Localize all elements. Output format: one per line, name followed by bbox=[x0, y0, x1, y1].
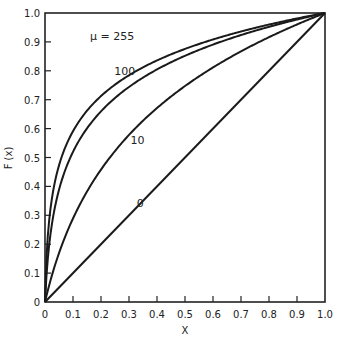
curve-label: 100 bbox=[114, 65, 135, 78]
x-tick-label: 1.0 bbox=[317, 309, 333, 320]
y-tick-label: 0.6 bbox=[24, 124, 40, 135]
curve-label: 0 bbox=[137, 197, 144, 210]
curve-label: μ = 255 bbox=[90, 30, 134, 43]
x-tick-label: 0.9 bbox=[289, 309, 305, 320]
x-tick-label: 0.5 bbox=[177, 309, 193, 320]
curves bbox=[45, 13, 325, 302]
y-tick-label: 0.7 bbox=[24, 95, 40, 106]
x-tick-label: 0.3 bbox=[121, 309, 137, 320]
y-tick-label: 0.3 bbox=[24, 210, 40, 221]
mu-law-chart: 00.10.20.30.40.50.60.70.80.91.0 00.10.20… bbox=[0, 0, 338, 342]
y-tick-label: 0.2 bbox=[24, 239, 40, 250]
x-tick-label: 0.4 bbox=[149, 309, 165, 320]
curve-labels: μ = 255100100 bbox=[90, 30, 144, 209]
x-tick-label: 0.1 bbox=[65, 309, 81, 320]
x-tick-label: 0.2 bbox=[93, 309, 109, 320]
y-tick-label: 0.1 bbox=[24, 268, 40, 279]
y-axis-label: F (x) bbox=[3, 147, 14, 170]
y-tick-label: 0 bbox=[34, 297, 40, 308]
x-tick-label: 0.6 bbox=[205, 309, 221, 320]
x-axis-label: X bbox=[182, 325, 189, 336]
x-tick-label: 0.8 bbox=[261, 309, 277, 320]
y-tick-label: 0.5 bbox=[24, 153, 40, 164]
y-tick-label: 1.0 bbox=[24, 8, 40, 19]
x-tick-label: 0.7 bbox=[233, 309, 249, 320]
y-tick-label: 0.4 bbox=[24, 181, 40, 192]
y-tick-label: 0.8 bbox=[24, 66, 40, 77]
x-tick-label: 0 bbox=[42, 309, 48, 320]
x-axis-ticks: 00.10.20.30.40.50.60.70.80.91.0 bbox=[42, 296, 333, 320]
y-tick-label: 0.9 bbox=[24, 37, 40, 48]
curve-label: 10 bbox=[130, 134, 144, 147]
